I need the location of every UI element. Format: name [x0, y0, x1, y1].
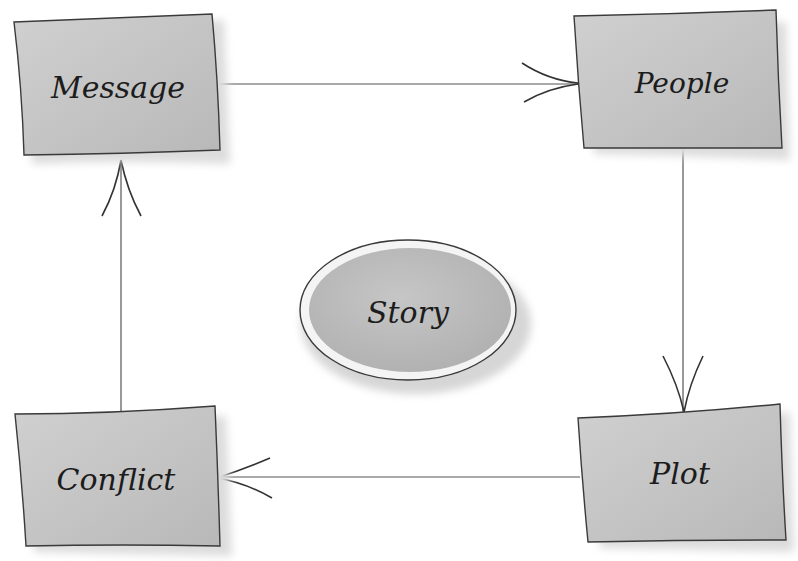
edge-people-to-plot [663, 148, 703, 412]
edge-plot-to-conflict [216, 458, 580, 498]
arrowhead-icon [102, 160, 121, 216]
node-plot[interactable]: Plot [578, 404, 794, 552]
node-conflict[interactable]: Conflict [15, 406, 232, 556]
edge-message-to-people [213, 63, 578, 102]
node-label: People [634, 67, 729, 100]
story-diagram: Message People Plot Conflict Story [0, 0, 798, 561]
node-label: Conflict [57, 462, 177, 497]
arrowhead-icon [663, 356, 684, 412]
edge-conflict-to-message [102, 160, 141, 418]
node-people[interactable]: People [574, 10, 790, 160]
center-story[interactable]: Story [300, 240, 531, 394]
arrowhead-icon [522, 63, 578, 83]
center-label: Story [367, 295, 450, 330]
node-message[interactable]: Message [14, 14, 230, 164]
node-label: Plot [649, 456, 711, 491]
node-label: Message [50, 70, 185, 105]
